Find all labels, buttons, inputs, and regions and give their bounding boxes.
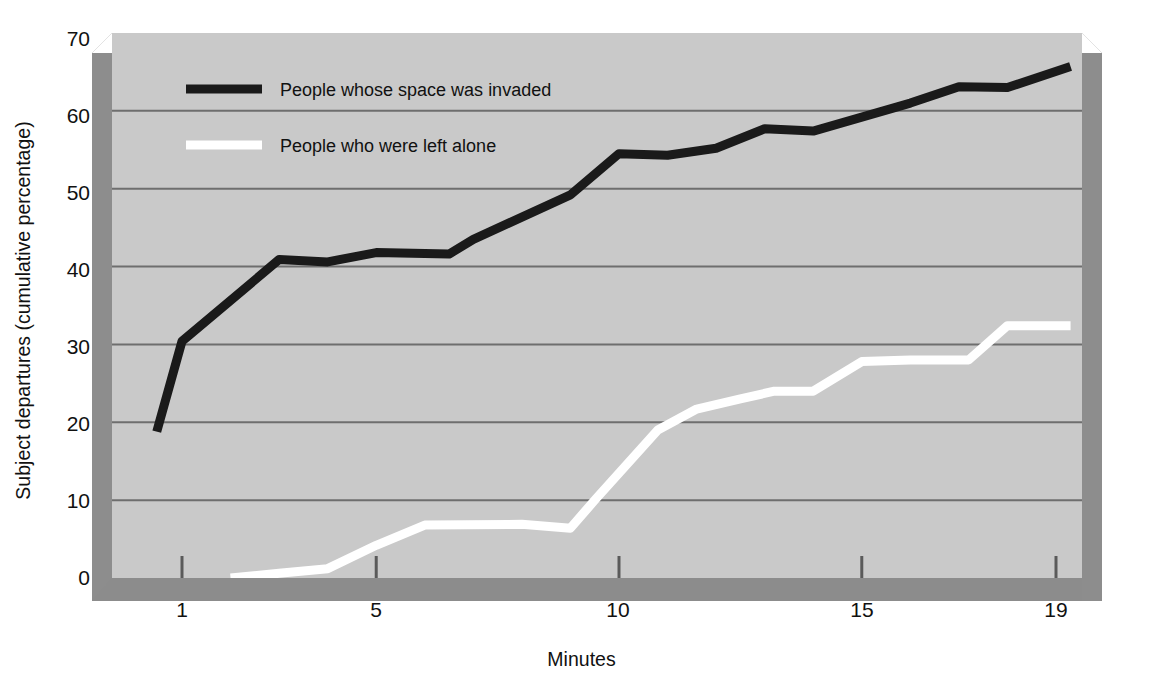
legend-label-2: People who were left alone (280, 136, 496, 156)
legend-label-1: People whose space was invaded (280, 80, 551, 100)
chart-figure: Subject departures (cumulative percentag… (0, 0, 1163, 692)
chart-right-wall-3d (1082, 33, 1102, 601)
chart-base-3d-front (92, 578, 1082, 601)
chart-left-wall-3d (92, 33, 112, 601)
plot-area: People whose space was invadedPeople who… (0, 0, 1163, 692)
